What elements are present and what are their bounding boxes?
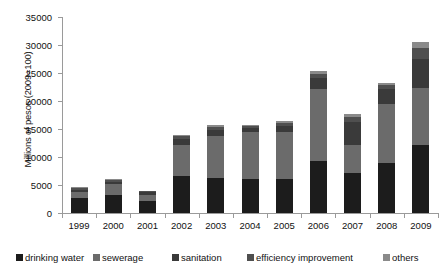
legend-label: sanitation	[181, 252, 222, 263]
y-axis-tick: 15000	[58, 129, 63, 130]
x-axis-tick	[335, 213, 336, 218]
x-axis-tick-label: 2006	[308, 220, 329, 231]
legend-swatch-icon	[247, 254, 254, 261]
y-axis-tick-label: 5000	[31, 180, 52, 191]
bar-segment	[276, 179, 293, 213]
y-axis-tick: 5000	[58, 185, 63, 186]
bar-segment	[310, 89, 327, 161]
y-axis-tick-label: 0	[47, 208, 52, 219]
x-axis-tick	[62, 213, 63, 218]
legend-item[interactable]: drinking water	[16, 252, 84, 263]
x-axis-tick	[233, 213, 234, 218]
x-axis-tick	[370, 213, 371, 218]
y-axis-tick-label: 10000	[26, 152, 52, 163]
legend-label: others	[392, 252, 418, 263]
legend-item[interactable]: sanitation	[172, 252, 222, 263]
x-axis-tick	[199, 213, 200, 218]
x-axis-tick-label: 2004	[239, 220, 260, 231]
bar-segment	[242, 132, 259, 179]
legend-swatch-icon	[172, 254, 179, 261]
bar-segment	[173, 145, 190, 176]
bar-segment	[412, 48, 429, 59]
bar-segment	[207, 130, 224, 137]
y-axis-tick: 25000	[58, 73, 63, 74]
bar-segment	[71, 198, 88, 213]
legend-item[interactable]: sewerage	[93, 252, 143, 263]
x-axis-tick	[267, 213, 268, 218]
bar-segment	[105, 195, 122, 213]
bar-segment	[173, 176, 190, 213]
y-axis-tick: 10000	[58, 157, 63, 158]
bar-segment	[344, 122, 361, 144]
bar-2003[interactable]	[207, 125, 224, 213]
bar-segment	[139, 201, 156, 213]
y-axis-tick-label: 20000	[26, 96, 52, 107]
legend-swatch-icon	[383, 254, 390, 261]
bar-2000[interactable]	[105, 179, 122, 213]
bar-segment	[412, 145, 429, 213]
x-axis-tick-label: 2002	[171, 220, 192, 231]
y-axis-tick-label: 35000	[26, 12, 52, 23]
y-axis-tick-label: 25000	[26, 68, 52, 79]
bar-2006[interactable]	[310, 71, 327, 213]
bar-segment	[344, 173, 361, 213]
legend-swatch-icon	[16, 254, 23, 261]
x-axis-line	[62, 213, 438, 214]
x-axis-tick	[404, 213, 405, 218]
bar-segment	[378, 163, 395, 213]
bar-2005[interactable]	[276, 121, 293, 213]
legend-label: efficiency improvement	[256, 252, 353, 263]
bar-segment	[378, 104, 395, 163]
bar-segment	[310, 161, 327, 213]
x-axis-tick-label: 2008	[376, 220, 397, 231]
x-axis-tick-label: 2001	[137, 220, 158, 231]
x-axis-tick	[301, 213, 302, 218]
bar-2007[interactable]	[344, 114, 361, 213]
bar-segment	[105, 184, 122, 195]
chart-container: Millions of pesos (2009=100) 05000100001…	[0, 0, 446, 277]
x-axis-tick-label: 2009	[410, 220, 431, 231]
x-axis-tick-label: 2007	[342, 220, 363, 231]
bar-segment	[412, 59, 429, 88]
y-axis-tick: 35000	[58, 17, 63, 18]
bar-2001[interactable]	[139, 191, 156, 213]
x-axis-tick	[165, 213, 166, 218]
bar-segment	[276, 132, 293, 178]
bar-series-group	[62, 17, 438, 213]
chart-legend: drinking waterseweragesanitationefficien…	[0, 252, 446, 268]
legend-item[interactable]: efficiency improvement	[247, 252, 353, 263]
bar-2008[interactable]	[378, 83, 395, 213]
bar-2004[interactable]	[242, 125, 259, 213]
bar-segment	[412, 88, 429, 145]
x-axis-tick-label: 1999	[69, 220, 90, 231]
bar-2009[interactable]	[412, 42, 429, 213]
y-axis-tick: 20000	[58, 101, 63, 102]
legend-item[interactable]: others	[383, 252, 418, 263]
y-axis-tick: 30000	[58, 45, 63, 46]
bar-segment	[207, 178, 224, 213]
x-axis-tick-label: 2000	[103, 220, 124, 231]
bar-segment	[139, 195, 156, 202]
bar-1999[interactable]	[71, 187, 88, 213]
bar-segment	[207, 136, 224, 177]
bar-segment	[378, 89, 395, 104]
bar-segment	[344, 145, 361, 173]
plot-area: 05000100001500020000250003000035000 1999…	[62, 17, 438, 213]
legend-label: sewerage	[102, 252, 143, 263]
x-axis-tick	[130, 213, 131, 218]
legend-label: drinking water	[25, 252, 84, 263]
bar-2002[interactable]	[173, 135, 190, 213]
bar-segment	[242, 179, 259, 213]
x-axis-tick	[438, 213, 439, 218]
x-axis-tick-label: 2003	[205, 220, 226, 231]
bar-segment	[310, 78, 327, 89]
y-axis-tick-label: 15000	[26, 124, 52, 135]
y-axis-tick-label: 30000	[26, 40, 52, 51]
legend-swatch-icon	[93, 254, 100, 261]
x-axis-tick	[96, 213, 97, 218]
x-axis-tick-label: 2005	[274, 220, 295, 231]
